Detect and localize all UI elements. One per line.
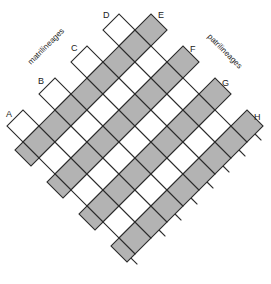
label-c: C <box>71 43 78 53</box>
label-g: G <box>222 78 229 88</box>
tick-line <box>131 258 137 264</box>
matrilineages-label: matrilineages <box>26 26 66 66</box>
tick-line <box>159 230 165 236</box>
label-h: H <box>254 112 261 122</box>
tick-line <box>239 150 245 156</box>
lineage-diagram: A B C D E F G H matrilineages patrilinea… <box>0 0 271 284</box>
label-b: B <box>38 76 44 86</box>
tick-line <box>175 214 181 220</box>
label-a: A <box>6 109 12 119</box>
tick-line <box>191 198 197 204</box>
label-f: F <box>190 44 196 54</box>
label-e: E <box>158 10 164 20</box>
tick-line <box>207 182 213 188</box>
lattice-grid <box>0 0 269 268</box>
label-d: D <box>103 10 110 20</box>
patrilineages-label: patrilineages <box>206 32 244 70</box>
tick-line <box>223 166 229 172</box>
tick-line <box>255 134 261 140</box>
